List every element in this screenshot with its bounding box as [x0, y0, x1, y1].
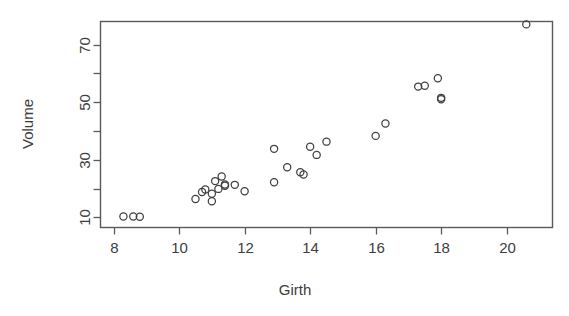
- plot-canvas: 8101214161820 10305070 Girth Volume: [0, 0, 569, 316]
- y-tick-label: 50: [76, 94, 93, 111]
- y-tick-label: 10: [76, 209, 93, 226]
- scatter-plot-figure: 8101214161820 10305070 Girth Volume: [0, 0, 569, 316]
- y-tick-label: 70: [76, 37, 93, 54]
- x-tick-label: 14: [302, 239, 319, 256]
- x-tick-label: 20: [499, 239, 516, 256]
- x-tick-label: 16: [368, 239, 385, 256]
- x-tick-label: 10: [171, 239, 188, 256]
- x-tick-label: 12: [237, 239, 254, 256]
- x-tick-label: 8: [110, 239, 118, 256]
- y-tick-label: 30: [76, 152, 93, 169]
- x-tick-label: 18: [433, 239, 450, 256]
- y-axis-title: Volume: [19, 99, 36, 149]
- x-axis-title: Girth: [279, 281, 312, 298]
